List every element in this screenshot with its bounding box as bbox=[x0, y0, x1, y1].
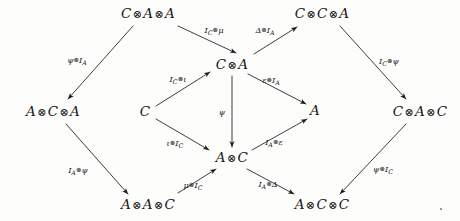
label-e-ic-mu: IC⊗μ bbox=[205, 26, 224, 36]
node-a: A bbox=[310, 104, 320, 118]
node-aac: A⊗A⊗C bbox=[121, 198, 175, 212]
label-e-delta-ia: Δ⊗IA bbox=[255, 26, 274, 36]
node-cac: C⊗A⊗C bbox=[393, 105, 448, 119]
node-c: C bbox=[140, 105, 151, 119]
arrow-e-ia-psi bbox=[66, 124, 128, 194]
node-caa: C⊗A⊗A bbox=[121, 7, 175, 21]
label-e-ic-iota: IC⊗ι bbox=[170, 75, 187, 85]
label-e-psi-ic: ψ⊗IC bbox=[373, 165, 393, 175]
label-e-iota-ic: ι⊗IC bbox=[167, 139, 184, 149]
label-e-ic-psi: IC⊗ψ bbox=[379, 57, 399, 67]
arrow-e-psi-ic bbox=[340, 124, 406, 194]
node-acc: A⊗C⊗C bbox=[295, 198, 350, 212]
label-e-ia-delta: IA⊗Δ bbox=[258, 180, 277, 190]
node-cca: C⊗C⊗A bbox=[295, 7, 350, 21]
commutative-diagram: C⊗A⊗AC⊗C⊗AA⊗C⊗AC⊗ACAC⊗A⊗CA⊗CA⊗A⊗CA⊗C⊗C ψ… bbox=[0, 0, 460, 221]
node-ac: A⊗C bbox=[216, 151, 248, 165]
node-aca: A⊗C⊗A bbox=[26, 105, 80, 119]
label-e-eps-ia: ε⊗IA bbox=[262, 76, 280, 86]
stray-dot-mark bbox=[440, 208, 442, 210]
node-ca: C⊗A bbox=[216, 58, 248, 72]
label-e-ia-psi: IA⊗ψ bbox=[68, 166, 88, 176]
label-e-mu-ic: μ⊗IC bbox=[184, 181, 203, 191]
label-e-psi: ψ bbox=[219, 108, 225, 116]
label-e-ia-eps: IA⊗ε bbox=[265, 138, 283, 148]
label-e-psi-ia: ψ⊗IA bbox=[67, 56, 87, 66]
